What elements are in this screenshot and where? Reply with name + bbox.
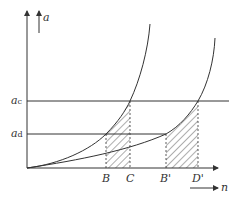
marker-d-prime: D' <box>192 173 204 184</box>
marker-b-prime: B' <box>160 173 171 184</box>
level-label-ad: ad <box>11 128 23 139</box>
level-label-ac: ac <box>11 95 22 106</box>
marker-c: C <box>126 173 134 184</box>
hatched-region-b-prime-d-prime <box>166 101 198 168</box>
x-axis-label: n <box>221 182 228 193</box>
level-label-sub: c <box>18 97 22 106</box>
level-label-sub: d <box>18 130 23 139</box>
marker-b: B <box>102 173 110 184</box>
y-axis-label: a <box>43 12 50 23</box>
diagram-canvas <box>0 0 238 197</box>
